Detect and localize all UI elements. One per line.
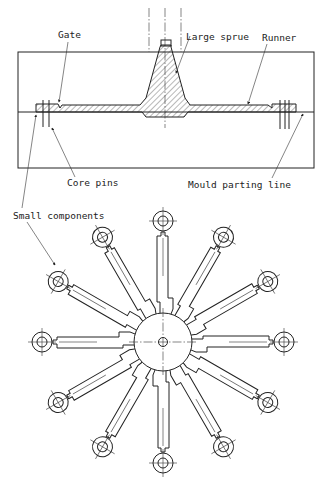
label-small-components: Small components [13,210,105,221]
cavity-spoke-10 [28,328,135,356]
label-runner: Runner [262,32,297,43]
leader-sprue [176,36,190,73]
section-view: Gate Large sprue Runner Core pins Mould … [18,8,314,208]
sprue-runner-section [36,45,296,117]
cavity-spoke-4 [191,328,298,356]
leader-core-pins [52,128,75,177]
label-gate: Gate [58,29,81,40]
cavity-spoke-12 [83,218,161,325]
label-core-pins: Core pins [67,177,118,188]
cavity-spoke-1 [149,207,177,314]
leader-small-components-plan [27,222,55,265]
label-large-sprue: Large sprue [186,31,249,42]
plan-view [28,207,298,477]
leader-gate [59,42,68,102]
cavity-spoke-3 [180,262,287,340]
cavity-spoke-7 [149,370,177,477]
mould-diagram: Gate Large sprue Runner Core pins Mould … [0,0,320,485]
leader-runner [248,44,267,104]
leader-small-components-section [22,115,36,208]
label-mould-parting-line: Mould parting line [188,179,291,190]
cavity-spoke-9 [39,344,146,422]
cavity-spoke-6 [165,359,243,466]
